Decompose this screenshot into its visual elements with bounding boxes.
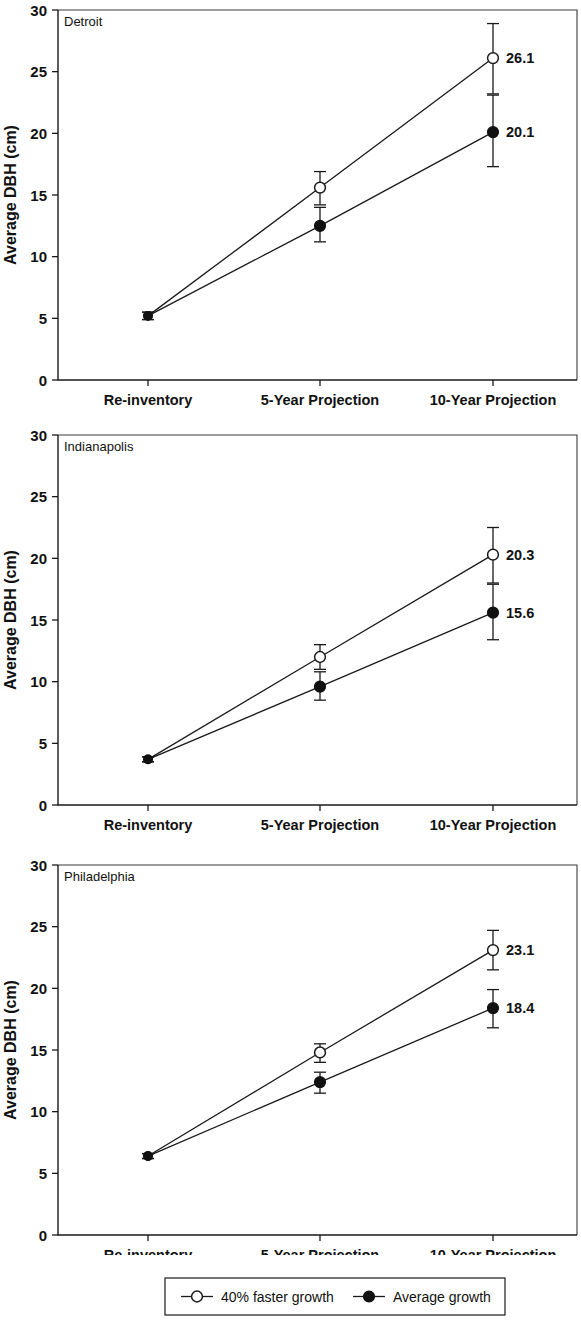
chart-panel-detroit: 051015202530Re-inventory5-Year Projectio… [0,0,581,425]
data-point-0-1 [315,652,326,663]
data-point-0-1 [315,182,326,193]
y-tick-label: 0 [39,797,47,814]
panel-title-detroit: Detroit [64,14,103,29]
y-tick-label: 30 [30,427,47,444]
y-tick-label: 20 [30,125,47,142]
y-tick-label: 15 [30,1042,47,1059]
data-point-1-2 [488,1003,499,1014]
data-point-value-label: 18.4 [506,1000,534,1016]
data-point-1-0 [144,1152,152,1160]
y-tick-label: 5 [39,735,47,752]
legend-label: 40% faster growth [221,1289,334,1305]
panel-title-philadelphia: Philadelphia [64,869,136,884]
data-point-0-2 [488,945,499,956]
plot-frame [58,435,577,805]
panel-contents: 051015202530Re-inventory5-Year Projectio… [2,857,577,1256]
y-tick-label: 5 [39,310,47,327]
y-tick-label: 0 [39,1227,47,1244]
y-tick-label: 30 [30,2,47,19]
y-axis-title: Average DBH (cm) [2,125,19,265]
data-point-value-label: 20.3 [506,547,534,563]
legend-marker-filled-circle [364,1291,375,1302]
data-point-value-label: 15.6 [506,605,534,621]
y-tick-label: 10 [30,673,47,690]
data-point-1-2 [488,607,499,618]
legend-svg: 40% faster growthAverage growth [0,1255,581,1322]
data-point-1-1 [315,681,326,692]
plot-frame [58,10,577,380]
x-tick-label: Re-inventory [104,817,193,833]
chart-panel-indianapolis: 051015202530Re-inventory5-Year Projectio… [0,425,581,855]
chart-svg-philadelphia: 051015202530Re-inventory5-Year Projectio… [0,855,581,1255]
chart-panel-philadelphia: 051015202530Re-inventory5-Year Projectio… [0,855,581,1255]
y-tick-label: 10 [30,1103,47,1120]
data-point-0-2 [488,53,499,64]
y-axis-title: Average DBH (cm) [2,550,19,690]
y-tick-label: 25 [30,918,47,935]
y-tick-label: 15 [30,612,47,629]
plot-axes [58,435,577,805]
data-point-value-label: 20.1 [506,124,534,140]
legend-label: Average growth [393,1289,491,1305]
chart-svg-detroit: 051015202530Re-inventory5-Year Projectio… [0,0,581,425]
data-point-1-2 [488,127,499,138]
x-tick-label: 10-Year Projection [430,1247,557,1255]
y-tick-label: 5 [39,1165,47,1182]
data-point-1-1 [315,1077,326,1088]
data-point-0-2 [488,549,499,560]
x-tick-label: Re-inventory [104,1247,193,1255]
x-tick-label: 5-Year Projection [261,817,379,833]
data-point-1-0 [144,312,152,320]
data-point-value-label: 23.1 [506,942,534,958]
legend-marker-open-circle [192,1291,203,1302]
x-tick-label: Re-inventory [104,392,193,408]
chart-svg-indianapolis: 051015202530Re-inventory5-Year Projectio… [0,425,581,855]
plot-axes [58,10,577,380]
y-tick-label: 10 [30,248,47,265]
data-point-1-1 [315,220,326,231]
chart-legend: 40% faster growthAverage growth [0,1255,581,1322]
x-tick-label: 5-Year Projection [261,392,379,408]
panel-contents: 051015202530Re-inventory5-Year Projectio… [2,427,577,834]
data-point-0-1 [315,1047,326,1058]
y-tick-label: 25 [30,488,47,505]
y-tick-label: 15 [30,187,47,204]
y-tick-label: 0 [39,372,47,389]
data-point-value-label: 26.1 [506,50,534,66]
y-tick-label: 30 [30,857,47,874]
x-tick-label: 5-Year Projection [261,1247,379,1255]
figure-multipanel-dbh-growth: 051015202530Re-inventory5-Year Projectio… [0,0,581,1322]
x-tick-label: 10-Year Projection [430,392,557,408]
panel-title-indianapolis: Indianapolis [64,439,134,454]
y-tick-label: 25 [30,63,47,80]
data-point-1-0 [144,755,152,763]
y-tick-label: 20 [30,550,47,567]
x-tick-label: 10-Year Projection [430,817,557,833]
panel-contents: 051015202530Re-inventory5-Year Projectio… [2,2,577,409]
y-axis-title: Average DBH (cm) [2,980,19,1120]
y-tick-label: 20 [30,980,47,997]
